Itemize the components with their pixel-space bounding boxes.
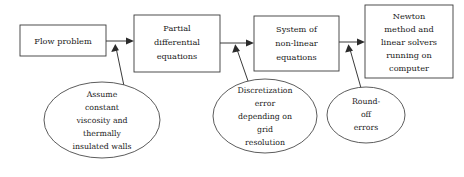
node-modelling-assumptions-line-2: viscosity and <box>75 116 127 125</box>
node-modelling-assumptions-line-4: insulated walls <box>72 142 131 151</box>
node-system-of-non-linear-equations: System of non-linear equations <box>254 16 339 71</box>
arrowhead-pde-to-system <box>246 40 254 47</box>
node-system-of-non-linear-equations-line-1: non-linear <box>275 38 317 48</box>
node-discretization-error-line-0: Discretization <box>237 86 292 95</box>
node-modelling-assumptions-line-1: constant <box>85 103 120 112</box>
arrowhead-flow-to-pde <box>126 38 134 45</box>
connector-roundoff-to-newton <box>350 50 361 88</box>
node-newton-method-and-linear-solvers-line-4: computer <box>389 63 429 73</box>
flow-diagram: Flow problem Partial differential equati… <box>0 0 464 177</box>
node-newton-method-and-linear-solvers-line-1: method and <box>384 24 433 34</box>
arrowhead-assumptions-to-pde <box>111 44 119 52</box>
box-layer: Flow problem Partial differential equati… <box>20 5 453 78</box>
arrowhead-roundoff-to-newton <box>345 44 353 52</box>
diagram-canvas: Flow problem Partial differential equati… <box>0 0 464 177</box>
node-discretization-error: Discretization error depending on grid r… <box>213 79 317 153</box>
node-flow-problem-line-0: Flow problem <box>34 36 92 46</box>
node-flow-problem: Flow problem <box>20 25 106 56</box>
node-newton-method-and-linear-solvers-line-2: linear solvers <box>381 37 437 47</box>
node-discretization-error-line-4: resolution <box>245 138 285 147</box>
node-modelling-assumptions-line-3: thermally <box>83 129 122 138</box>
node-partial-differential-equations-line-1: differential <box>154 37 200 47</box>
node-system-of-non-linear-equations-line-2: equations <box>276 52 317 62</box>
connector-assumptions-to-pde <box>117 50 125 86</box>
node-newton-method-and-linear-solvers: Newton method and linear solvers running… <box>365 5 453 78</box>
node-discretization-error-line-2: depending on <box>238 112 292 121</box>
node-partial-differential-equations-line-2: equations <box>157 51 198 61</box>
node-round-off-errors-line-1: off <box>361 110 372 119</box>
connector-discretization-to-system <box>237 50 248 81</box>
arrowhead-system-to-newton <box>357 39 365 46</box>
node-discretization-error-line-3: grid <box>257 125 273 134</box>
node-discretization-error-line-1: error <box>255 99 276 108</box>
node-round-off-errors-line-2: errors <box>354 123 379 132</box>
node-system-of-non-linear-equations-line-0: System of <box>276 24 318 34</box>
ellipse-layer: Assume constant viscosity and thermally … <box>44 79 405 158</box>
node-modelling-assumptions-line-0: Assume <box>86 90 118 99</box>
node-round-off-errors-line-0: Round- <box>352 97 381 106</box>
node-modelling-assumptions: Assume constant viscosity and thermally … <box>44 82 160 158</box>
arrowhead-discretization-to-system <box>232 44 240 52</box>
node-round-off-errors: Round- off errors <box>327 87 405 143</box>
node-partial-differential-equations-line-0: Partial <box>163 23 191 33</box>
node-partial-differential-equations: Partial differential equations <box>134 15 220 72</box>
node-newton-method-and-linear-solvers-line-0: Newton <box>393 11 426 21</box>
node-newton-method-and-linear-solvers-line-3: running on <box>386 50 432 60</box>
